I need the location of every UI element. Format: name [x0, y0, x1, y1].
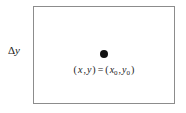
paren-close-left: ): [92, 64, 95, 75]
variable-x: x: [78, 64, 82, 75]
paren-open-left: (: [74, 64, 77, 75]
comma-right: ,: [119, 64, 122, 75]
subscript-x-zero: 0: [114, 69, 118, 77]
point-marker-dot: [100, 50, 108, 58]
paren-open-right: (: [105, 64, 108, 75]
figure-canvas: Δy (x,y)=(x0,y0): [0, 0, 186, 113]
subscript-y-zero: 0: [127, 69, 131, 77]
variable-y-zero: y: [122, 64, 126, 75]
delta-y-variable: y: [15, 44, 20, 56]
comma-left: ,: [83, 64, 86, 75]
equals-sign: =: [98, 64, 104, 75]
delta-y-label: Δy: [8, 44, 20, 57]
variable-y: y: [87, 64, 91, 75]
paren-close-right: ): [131, 64, 134, 75]
point-coordinate-equation: (x,y)=(x0,y0): [33, 64, 175, 77]
